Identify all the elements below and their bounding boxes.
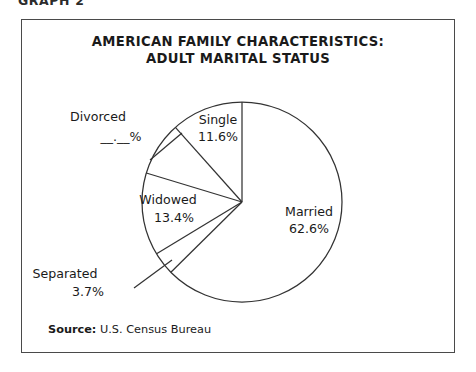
- pie-label-separated-name: Separated: [32, 266, 97, 281]
- source-note: Source: U.S. Census Bureau: [48, 323, 211, 336]
- pie-label-single-value: 11.6%: [198, 129, 238, 144]
- pie-label-divorced-value-blank: __.__%: [99, 129, 141, 144]
- pie-label-divorced-name: Divorced: [70, 109, 126, 124]
- leader-line-separated: [134, 260, 172, 288]
- figure-caption: GRAPH 2: [18, 0, 138, 8]
- pie-label-single-name: Single: [199, 112, 238, 127]
- pie-label-widowed: Widowed 13.4%: [139, 192, 196, 225]
- source-label: Source:: [48, 323, 96, 336]
- pie-label-married-name: Married: [285, 204, 333, 219]
- pie-label-divorced: Divorced __.__%: [70, 109, 142, 144]
- pie-label-separated: Separated 3.7%: [32, 266, 104, 299]
- pie-label-separated-value: 3.7%: [72, 284, 104, 299]
- pie-chart: Married 62.6% Single 11.6% Divorced __._…: [22, 20, 456, 354]
- chart-frame: AMERICAN FAMILY CHARACTERISTICS: ADULT M…: [21, 19, 455, 353]
- pie-label-single: Single 11.6%: [198, 112, 238, 144]
- pie-label-widowed-name: Widowed: [139, 192, 196, 207]
- pie-label-married-value: 62.6%: [289, 221, 329, 236]
- source-text: U.S. Census Bureau: [100, 323, 211, 336]
- pie-label-married: Married 62.6%: [285, 204, 333, 236]
- pie-label-widowed-value: 13.4%: [154, 210, 194, 225]
